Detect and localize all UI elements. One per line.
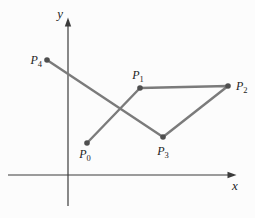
point-P4 — [44, 57, 50, 63]
polyline-diagram: yxP0P1P2P3P4 — [0, 0, 255, 218]
y-axis-arrowhead — [65, 18, 71, 27]
point-P2 — [225, 83, 231, 89]
point-label-P2: P2 — [235, 79, 248, 95]
point-P3 — [160, 134, 166, 140]
x-axis-label: x — [231, 178, 238, 193]
y-axis-label: y — [55, 6, 63, 21]
figure-canvas: yxP0P1P2P3P4 — [0, 0, 255, 218]
point-label-P1: P1 — [131, 68, 144, 84]
point-label-P0: P0 — [78, 147, 91, 163]
point-label-P3: P3 — [156, 144, 169, 160]
point-label-P4: P4 — [29, 53, 42, 69]
point-P0 — [84, 140, 90, 146]
point-P1 — [137, 85, 143, 91]
